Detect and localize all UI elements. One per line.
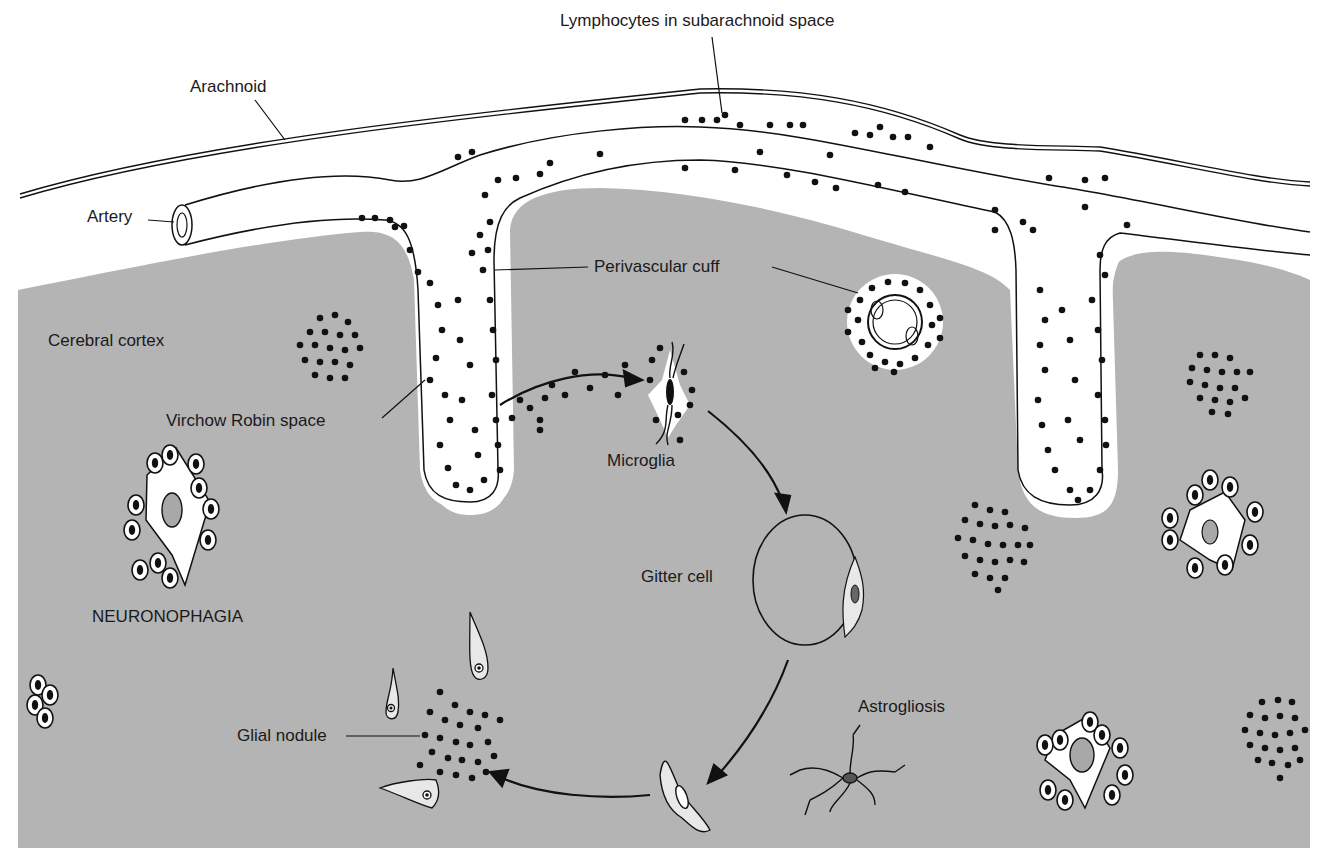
virchow-robin-space-right — [1005, 248, 1130, 515]
label-gitter-cell: Gitter cell — [641, 568, 713, 585]
diagram-canvas: Lymphocytes in subarachnoid space Arachn… — [0, 0, 1322, 861]
arachnoid-membrane — [20, 89, 1310, 198]
label-artery: Artery — [87, 208, 132, 225]
label-cerebral-cortex: Cerebral cortex — [48, 332, 164, 349]
label-neuronophagia: NEURONOPHAGIA — [92, 608, 243, 625]
label-arachnoid: Arachnoid — [190, 78, 267, 95]
label-perivascular-cuff: Perivascular cuff — [594, 258, 719, 275]
label-microglia: Microglia — [607, 452, 675, 469]
perivascular-cuff-cross-section — [847, 274, 943, 370]
label-virchow-robin-space: Virchow Robin space — [166, 412, 325, 429]
label-lymphocytes: Lymphocytes in subarachnoid space — [560, 12, 834, 29]
label-astrogliosis: Astrogliosis — [858, 698, 945, 715]
label-glial-nodule: Glial nodule — [237, 727, 327, 744]
